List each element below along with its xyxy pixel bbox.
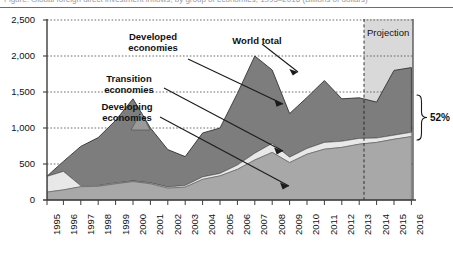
annotation-transition-line2: economies <box>104 84 154 95</box>
x-axis-label-1996: 1996 <box>68 214 79 235</box>
y-axis-label-500: 500 <box>1 158 35 169</box>
x-axis-label-2006: 2006 <box>241 214 252 235</box>
annotation-developing-line2: economies <box>102 112 152 123</box>
y-axis-label-2500: 2,500 <box>1 14 35 25</box>
annotation-world-total: World total <box>225 35 289 46</box>
annotation-developed-economies: Developed economies <box>117 31 189 53</box>
annotation-developed-line1: Developed <box>129 31 177 42</box>
x-axis-label-2009: 2009 <box>293 214 304 235</box>
x-axis-label-2013: 2013 <box>362 214 373 235</box>
annotation-developing-economies: Developing economies <box>88 101 166 123</box>
x-axis-label-2016: 2016 <box>414 214 425 235</box>
figure-container: Figure: Global foreign direct investment… <box>0 0 453 263</box>
x-axis-label-2004: 2004 <box>206 214 217 235</box>
x-axis-label-2000: 2000 <box>137 214 148 235</box>
x-axis-label-1995: 1995 <box>51 214 62 235</box>
x-axis-label-1997: 1997 <box>85 214 96 235</box>
annotation-developed-line2: economies <box>128 42 178 53</box>
x-axis-label-2008: 2008 <box>276 214 287 235</box>
annotation-projection: Projection <box>367 27 409 38</box>
x-axis-label-2007: 2007 <box>258 214 269 235</box>
annotation-world-total-text: World total <box>232 35 281 46</box>
growth-brace <box>417 95 427 140</box>
x-axis-label-2014: 2014 <box>380 214 391 235</box>
x-axis-label-2015: 2015 <box>397 214 408 235</box>
annotation-growth-percent: 52% <box>430 112 450 123</box>
x-axis-label-2003: 2003 <box>189 214 200 235</box>
y-axis-label-1000: 1,000 <box>1 122 35 133</box>
annotation-transition-line1: Transition <box>106 73 151 84</box>
x-axis-label-2002: 2002 <box>172 214 183 235</box>
y-axis-label-2000: 2,000 <box>1 50 35 61</box>
arrowhead-world-total <box>289 69 298 76</box>
annotation-transition-economies: Transition economies <box>93 73 165 95</box>
x-axis-label-2001: 2001 <box>154 214 165 235</box>
x-axis-label-2012: 2012 <box>345 214 356 235</box>
y-axis-label-1500: 1,500 <box>1 86 35 97</box>
x-tick-marks <box>47 200 411 205</box>
x-axis-label-1998: 1998 <box>102 214 113 235</box>
x-axis-label-2011: 2011 <box>328 215 339 235</box>
x-axis-label-2005: 2005 <box>224 214 235 235</box>
x-axis-label-1999: 1999 <box>120 214 131 235</box>
x-axis-label-2010: 2010 <box>310 214 321 235</box>
y-axis-label-0: 0 <box>1 194 35 205</box>
annotation-developing-line1: Developing <box>101 101 152 112</box>
